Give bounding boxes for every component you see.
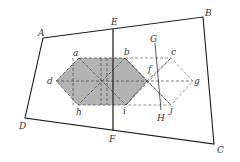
label-b: b: [124, 47, 130, 57]
line-gh: [155, 43, 161, 110]
label-B: B: [204, 8, 212, 18]
label-A: A: [37, 28, 45, 38]
label-f: f: [147, 64, 153, 74]
label-g: g: [194, 76, 200, 86]
label-E: E: [110, 17, 118, 27]
label-c: c: [171, 47, 176, 57]
label-D: D: [18, 121, 26, 131]
label-d: d: [47, 76, 53, 86]
shaded-hexagon: [56, 58, 147, 105]
label-C: C: [217, 145, 224, 155]
geometry-diagram: A B C D E F G H a b c d f g h i j: [0, 0, 240, 162]
label-H: H: [156, 113, 165, 123]
label-F: F: [108, 134, 116, 144]
label-a: a: [73, 48, 78, 58]
label-j: j: [168, 105, 173, 115]
label-i: i: [123, 106, 126, 116]
label-G: G: [150, 34, 157, 44]
label-h: h: [76, 107, 82, 117]
